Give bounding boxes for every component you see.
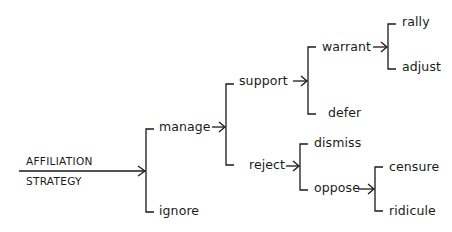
node-support: support [239,74,288,88]
connector-lines [0,0,452,232]
affiliation-strategy-diagram: AFFILIATION STRATEGY manage ignore suppo… [0,0,452,232]
node-ridicule: ridicule [389,204,436,218]
node-censure: censure [389,160,439,174]
oppose-arrow [358,184,374,194]
bracket-reject [300,144,308,190]
node-reject: reject [249,158,285,172]
bracket-root [146,129,154,212]
node-oppose: oppose [314,181,360,195]
warrant-arrow [373,42,387,52]
manage-arrow [212,122,225,132]
node-warrant: warrant [322,40,371,54]
support-arrow [293,76,307,86]
bracket-manage [226,84,234,165]
bracket-support [308,47,316,114]
root-label-strategy: STRATEGY [26,175,82,187]
bracket-warrant [388,24,396,69]
bracket-oppose [375,167,383,211]
root-label-affiliation: AFFILIATION [26,155,93,167]
node-adjust: adjust [402,60,441,74]
node-manage: manage [159,120,211,134]
node-rally: rally [402,15,430,29]
node-dismiss: dismiss [314,136,361,150]
node-ignore: ignore [159,204,199,218]
reject-arrow [286,161,299,171]
node-defer: defer [328,106,361,120]
